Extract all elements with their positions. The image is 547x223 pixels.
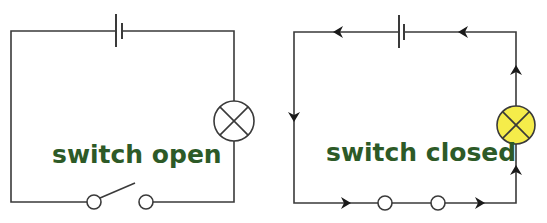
battery-icon xyxy=(399,15,404,48)
circuit-closed: switch closed xyxy=(288,15,535,210)
switch-open-icon xyxy=(87,183,153,209)
circuit-diagram: switch open xyxy=(0,0,547,223)
wire-top-right xyxy=(122,31,234,101)
current-arrows xyxy=(288,26,522,209)
label-switch-open: switch open xyxy=(52,140,222,169)
wire-loop-top xyxy=(404,32,516,106)
wire-top-left xyxy=(11,31,116,202)
circuit-open: switch open xyxy=(11,14,254,209)
wire-loop-left xyxy=(294,32,399,203)
label-switch-closed: switch closed xyxy=(326,138,516,167)
lamp-off-icon xyxy=(214,101,254,141)
battery-icon xyxy=(116,14,122,47)
